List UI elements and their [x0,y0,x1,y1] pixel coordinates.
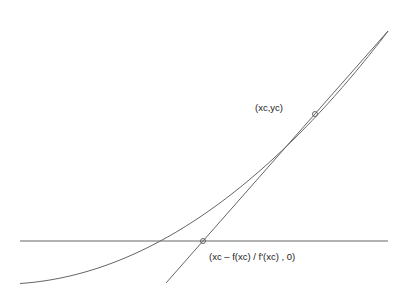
function-curve [20,31,388,283]
tangent-point-label: (xc,yc) [255,102,283,113]
newton-method-diagram [0,0,405,300]
root-estimate-label: (xc – f(xc) / f'(xc) , 0) [209,251,295,262]
tangent-line [166,31,388,283]
